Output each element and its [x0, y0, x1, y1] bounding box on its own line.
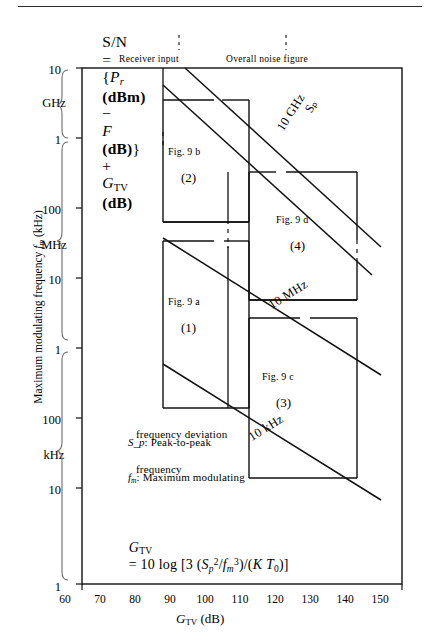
callout-leader-lines [179, 35, 286, 50]
chart-canvas [0, 0, 440, 640]
region-box-1 [163, 222, 249, 408]
region-separators-dashed [163, 132, 357, 262]
diagonal-lines [163, 68, 381, 500]
figure-root: S/N = {Pr (dBm) − F (dB)} + GTV (dB) Rec… [0, 0, 440, 640]
x-tick-marks [82, 584, 402, 590]
y-tick-marks [76, 68, 82, 584]
y-unit-braces [57, 70, 68, 580]
diagonal-10ghz [163, 85, 372, 275]
region-box-4 [249, 172, 357, 300]
diagonal-sp [185, 68, 381, 247]
plot-frame [82, 68, 402, 584]
diagonal-10khz [163, 364, 381, 500]
diagonal-10mhz [163, 238, 381, 375]
region-box-2 [163, 100, 249, 222]
region-separators [163, 68, 228, 408]
